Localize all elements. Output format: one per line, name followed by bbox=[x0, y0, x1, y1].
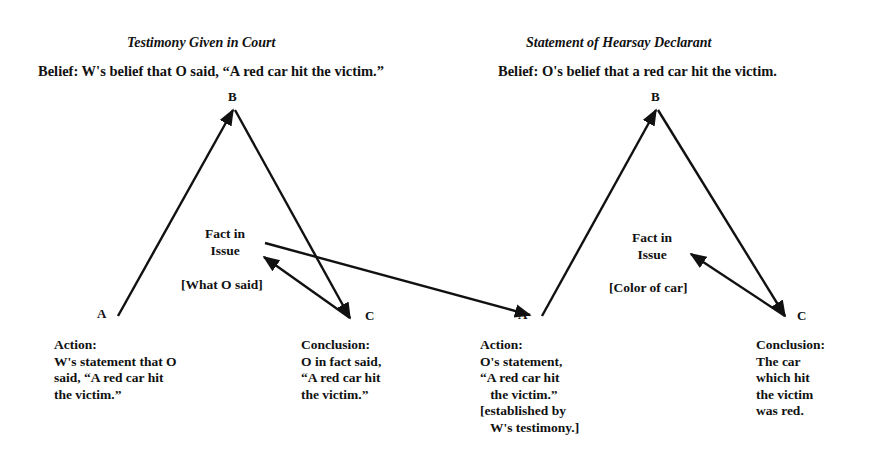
right-fact-line1: Fact in bbox=[632, 229, 672, 246]
left-fact-in-issue: Fact in Issue bbox=[205, 225, 245, 259]
left-action-text: Action: W's statement that O said, “A re… bbox=[54, 337, 177, 403]
left-belief: Belief: W's belief that O said, “A red c… bbox=[38, 63, 384, 80]
right-belief: Belief: O's belief that a red car hit th… bbox=[498, 63, 777, 80]
right-vertex-a: A bbox=[518, 307, 527, 323]
connector-fact-to-right-a bbox=[265, 243, 530, 315]
right-conclusion-text: Conclusion: The car which hit the victim… bbox=[756, 337, 825, 420]
right-panel-title: Statement of Hearsay Declarant bbox=[526, 35, 712, 51]
left-vertex-b: B bbox=[228, 89, 237, 105]
left-fact-line1: Fact in bbox=[205, 225, 245, 242]
right-vertex-c: C bbox=[797, 308, 806, 324]
left-conclusion-text: Conclusion: O in fact said, “A red car h… bbox=[301, 337, 381, 403]
left-vertex-c: C bbox=[365, 308, 374, 324]
right-action-text: Action: O's statement, “A red car hit th… bbox=[480, 337, 579, 436]
right-vertex-b: B bbox=[651, 89, 660, 105]
left-fact-label: [What O said] bbox=[181, 277, 263, 293]
left-vertex-a: A bbox=[97, 306, 106, 322]
right-fact-in-issue: Fact in Issue bbox=[632, 229, 672, 263]
left-edge-c-to-fact bbox=[264, 257, 350, 318]
right-fact-line2: Issue bbox=[632, 246, 672, 263]
right-edge-c-to-fact bbox=[691, 254, 785, 316]
left-fact-line2: Issue bbox=[205, 242, 245, 259]
right-fact-label: [Color of car] bbox=[609, 280, 687, 296]
left-panel-title: Testimony Given in Court bbox=[127, 35, 275, 51]
